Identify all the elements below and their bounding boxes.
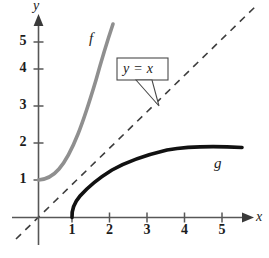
curve-f-label: f xyxy=(89,30,93,47)
y-tick-label-3: 3 xyxy=(16,97,30,113)
y-axis-label: y xyxy=(33,0,39,14)
identity-line-y-equals-x xyxy=(16,4,258,239)
y-tick-label-4: 4 xyxy=(16,60,30,76)
y-tick-label-5: 5 xyxy=(16,33,30,49)
identity-callout-leader xyxy=(136,80,159,106)
curve-g-label: g xyxy=(214,155,222,172)
x-tick-label-3: 3 xyxy=(140,222,154,238)
x-axis-arrow-icon xyxy=(242,213,254,223)
y-axis-arrow-icon xyxy=(34,14,44,26)
x-tick-label-2: 2 xyxy=(103,222,117,238)
x-axis-label: x xyxy=(256,209,262,225)
y-tick-label-2: 2 xyxy=(16,134,30,150)
x-tick-label-4: 4 xyxy=(178,222,192,238)
x-tick-label-1: 1 xyxy=(65,222,79,238)
inverse-functions-figure: y x 1 2 3 4 5 1 2 3 4 5 f g y = x xyxy=(0,0,269,258)
plot-canvas xyxy=(0,0,269,258)
identity-callout-text: y = x xyxy=(123,61,153,77)
y-tick-label-1: 1 xyxy=(16,171,30,187)
x-tick-label-5: 5 xyxy=(215,222,229,238)
